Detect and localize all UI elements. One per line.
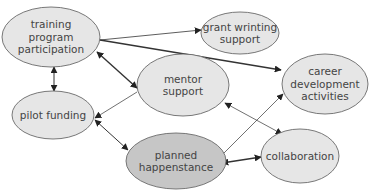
edge-training-grant xyxy=(100,30,201,40)
node-label: happenstance xyxy=(139,161,213,173)
node-grant: grant wrintingsupport xyxy=(201,12,279,54)
nodes-layer: trainingprogramparticipationgrant wrinti… xyxy=(2,7,368,189)
node-label: development xyxy=(290,78,359,90)
edge-training-mentor xyxy=(97,52,137,88)
edge-mentor-pilot xyxy=(95,92,137,118)
node-label: support xyxy=(220,33,260,45)
node-label: grant wrinting xyxy=(203,21,277,33)
edge-planned-collab xyxy=(222,157,261,163)
node-collab: collaboration xyxy=(261,129,339,183)
node-label: planned xyxy=(155,149,197,161)
node-label: program xyxy=(29,31,74,43)
edge-mentor-collab xyxy=(225,103,282,134)
node-mentor: mentorsupport xyxy=(137,54,229,116)
node-label: pilot funding xyxy=(20,109,86,121)
node-training: trainingprogramparticipation xyxy=(2,7,100,67)
node-label: career xyxy=(308,65,342,77)
node-label: support xyxy=(163,85,203,97)
node-label: mentor xyxy=(164,73,203,85)
diagram-canvas: trainingprogramparticipationgrant wrinti… xyxy=(0,0,383,194)
node-label: participation xyxy=(18,43,84,55)
node-pilot: pilot funding xyxy=(12,91,94,139)
node-label: collaboration xyxy=(266,150,334,162)
node-label: training xyxy=(31,18,72,30)
edge-pilot-planned xyxy=(95,120,128,150)
node-planned: plannedhappenstance xyxy=(126,133,226,189)
node-label: activities xyxy=(301,90,348,102)
node-career: careerdevelopmentactivities xyxy=(282,54,368,114)
